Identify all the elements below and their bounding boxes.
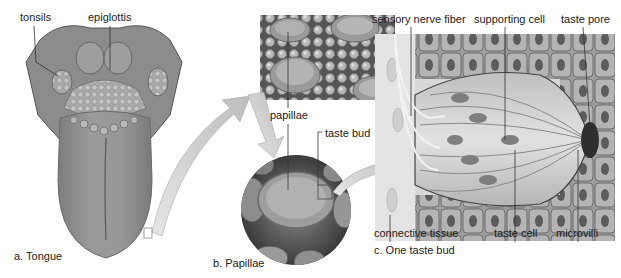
- label-supporting-cell: supporting cell: [474, 13, 545, 25]
- arrow-papillae-to-closeup: [248, 92, 284, 158]
- label-sensory-nerve-fiber: sensory nerve fiber: [372, 13, 466, 25]
- label-taste-pore: taste pore: [561, 13, 610, 25]
- caption-one-taste-bud: c. One taste bud: [374, 244, 455, 256]
- label-connective-tissue: connective tissue: [374, 227, 458, 239]
- label-microvilli: microvilli: [556, 227, 598, 239]
- zoom-box-a: [144, 228, 152, 238]
- label-taste-cell: taste cell: [494, 227, 537, 239]
- label-tonsils: tonsils: [20, 11, 51, 23]
- label-taste-bud: taste bud: [325, 127, 370, 139]
- label-epiglottis: epiglottis: [88, 11, 131, 23]
- caption-papillae: b. Papillae: [213, 257, 264, 269]
- caption-tongue: a. Tongue: [14, 250, 62, 262]
- label-papillae: papillae: [270, 109, 308, 121]
